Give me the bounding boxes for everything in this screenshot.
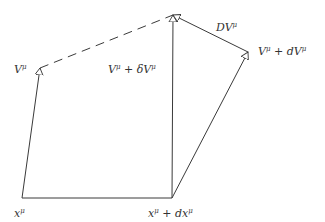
label-v-plus-dv: Vμ + dVμ bbox=[258, 46, 306, 57]
label-sup2: μ bbox=[151, 63, 156, 71]
diagram-canvas: xμ xμ + dxμ Vμ Vμ + δVμ Vμ + dVμ DVμ bbox=[0, 0, 325, 222]
label-rest: + δV bbox=[121, 63, 152, 76]
label-x-mu: xμ bbox=[14, 208, 25, 219]
label-base: V bbox=[258, 45, 266, 58]
label-sup2: μ bbox=[302, 45, 307, 53]
label-v-plus-delta-v: Vμ + δVμ bbox=[108, 64, 156, 75]
label-sup: μ bbox=[233, 21, 238, 29]
vector-v-arrow bbox=[22, 68, 40, 198]
label-base: DV bbox=[216, 21, 233, 34]
dashed-transport-line bbox=[40, 15, 173, 68]
diagram-svg bbox=[0, 0, 325, 222]
label-base: V bbox=[14, 63, 22, 76]
label-sup: μ bbox=[22, 63, 27, 71]
vector-v-plus-dv-arrow bbox=[172, 52, 248, 198]
label-v-mu: Vμ bbox=[14, 64, 27, 75]
label-x-plus-dx: xμ + dxμ bbox=[148, 208, 193, 219]
label-sup: μ bbox=[20, 207, 25, 215]
label-rest: + dx bbox=[159, 207, 188, 220]
label-base: V bbox=[108, 63, 116, 76]
label-rest: + dV bbox=[271, 45, 302, 58]
label-sup2: μ bbox=[188, 207, 193, 215]
vector-v-plus-delta-v-arrow bbox=[172, 15, 173, 198]
label-covariant-dv: DVμ bbox=[216, 22, 237, 33]
